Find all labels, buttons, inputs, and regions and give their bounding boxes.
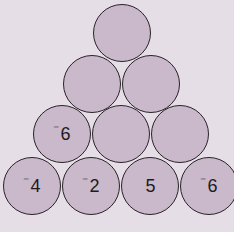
pyramid-cell-r0-c0[interactable] [93,4,151,62]
cell-number: 2 [89,176,99,197]
pyramid-cell-r1-c0[interactable] [63,55,121,113]
pyramid-cell-r1-c1[interactable] [122,55,180,113]
cell-number: 6 [60,124,70,145]
cell-value: ⁻4 [23,176,40,197]
pyramid-cell-r3-c2[interactable]: 5 [121,157,179,215]
cell-value: ⁻6 [200,176,217,197]
cell-number: 4 [30,176,40,197]
negative-sign: ⁻ [23,175,29,187]
negative-sign: ⁻ [82,175,88,187]
negative-sign: ⁻ [53,123,59,135]
pyramid-cell-r2-c0[interactable]: ⁻6 [33,105,91,163]
cell-value: 5 [144,176,155,197]
pyramid-cell-r3-c0[interactable]: ⁻4 [3,157,61,215]
cell-number: 5 [145,176,155,197]
cell-value: ⁻6 [53,124,70,145]
cell-number: 6 [207,176,217,197]
pyramid-cell-r2-c1[interactable] [92,105,150,163]
negative-sign: ⁻ [200,175,206,187]
number-pyramid: ⁻6 ⁻4 ⁻2 5 ⁻6 [0,0,234,232]
pyramid-cell-r3-c3[interactable]: ⁻6 [180,157,234,215]
cell-value: ⁻2 [82,176,99,197]
pyramid-cell-r3-c1[interactable]: ⁻2 [62,157,120,215]
pyramid-cell-r2-c2[interactable] [151,105,209,163]
